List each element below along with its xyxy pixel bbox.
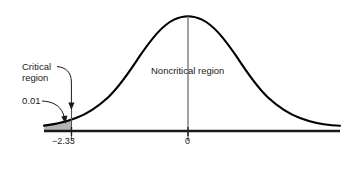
x-axis-tick-label-mean: 0 (185, 136, 190, 146)
critical-region-label-line2: region (22, 73, 51, 84)
x-axis-tick-label-critical-value: −2.33 (52, 136, 75, 146)
critical-region-arrowhead-icon (68, 103, 74, 111)
noncritical-region-label: Noncritical region (151, 66, 224, 77)
critical-region-label: Critical region (22, 62, 51, 84)
alpha-value-label: 0.01 (22, 96, 41, 107)
distribution-plot (0, 0, 349, 177)
normal-distribution-figure: Critical region 0.01 Noncritical region … (0, 0, 349, 177)
alpha-leader-line (42, 101, 64, 117)
critical-region-leader-line (57, 67, 71, 105)
